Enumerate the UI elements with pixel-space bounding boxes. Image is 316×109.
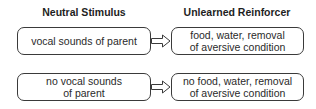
reinforcer-text-1: food, water, removal of aversive conditi… (190, 29, 286, 53)
stimulus-box-1: vocal sounds of parent (17, 27, 151, 55)
stimulus-text-1: vocal sounds of parent (31, 35, 137, 47)
stimulus-box-2: no vocal sounds of parent (17, 73, 151, 101)
header-unlearned-reinforcer: Unlearned Reinforcer (171, 6, 303, 18)
stimulus-text-2: no vocal sounds of parent (46, 75, 122, 99)
hollow-right-arrow-icon (151, 80, 171, 94)
hollow-right-arrow-icon (151, 34, 171, 48)
reinforcer-box-2: no food, water, removal of aversive cond… (171, 73, 304, 101)
reinforcer-text-2: no food, water, removal of aversive cond… (183, 75, 292, 99)
header-neutral-stimulus: Neutral Stimulus (17, 6, 151, 18)
reinforcer-box-1: food, water, removal of aversive conditi… (171, 27, 304, 55)
